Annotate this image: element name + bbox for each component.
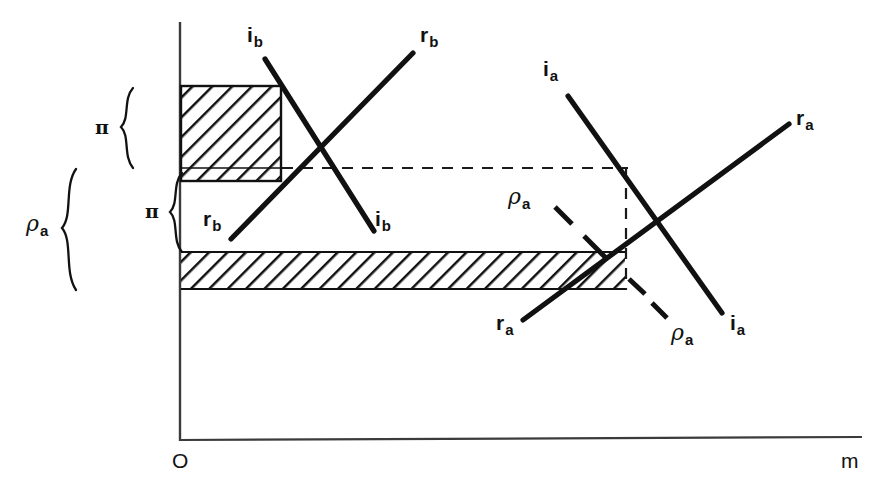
curve-label-rb-bottom: rb [203,208,220,229]
curve-label-ia-top-sub: a [550,67,558,84]
rho-a-lower-leader [629,279,667,318]
curve-label-rb-top-sub: b [429,33,438,50]
curve-label-ra-bottom-base: r [496,311,504,334]
brace-label-rho-a-sub: a [40,222,48,239]
curve-label-ia-bottom-sub: a [737,321,745,338]
brace-label-pi-lower: π [145,202,159,221]
curve-label-ib-bottom: ib [375,208,390,229]
brace-label-rho-a: ρa [26,213,47,235]
curve-label-ra-top-base: r [796,106,804,129]
curve-label-ra-top-sub: a [805,116,813,133]
curve-label-rb-top-base: r [420,23,428,46]
curve-label-ib-top-sub: b [254,33,263,50]
brace-group [62,88,182,290]
curve-label-ib-bottom-base: i [375,207,381,230]
curve-label-ib-top: ib [247,24,262,45]
curve-label-rho-a-lower-sub: a [685,331,693,348]
curve-label-ia-bottom-base: i [730,311,736,334]
curve-label-rb-bottom-sub: b [212,217,221,234]
brace-pi-upper [121,88,133,168]
rho-a-upper-leader [555,207,606,258]
curve-label-ia-top-base: i [543,57,549,80]
figure-canvas: O m π π ρa ib rb rb ib ia ra ra ia ρa ρa [0,0,878,500]
curve-label-ra-top: ra [796,107,813,128]
curve-label-ra-bottom-sub: a [505,321,513,338]
x-axis [179,437,862,440]
curve-label-ra-bottom: ra [496,312,513,333]
curve-label-rho-a-upper-base: ρ [508,184,521,209]
brace-label-rho-a-base: ρ [26,211,39,236]
brace-rho-a [62,169,76,290]
diagram-svg [0,0,878,500]
curve-label-ia-top: ia [543,58,557,79]
origin-label: O [172,450,188,471]
curve-label-ib-top-base: i [247,23,253,46]
curve-label-rb-top: rb [420,24,437,45]
curve-label-rho-a-lower: ρa [671,322,692,344]
curve-label-rho-a-upper-sub: a [522,195,530,212]
x-axis-label: m [841,450,859,471]
curve-label-ia-bottom: ia [730,312,744,333]
curve-label-ib-bottom-sub: b [382,217,391,234]
curve-label-rho-a-lower-base: ρ [671,320,684,345]
upper-hatch-block [181,86,281,181]
curve-label-rb-bottom-base: r [203,207,211,230]
lower-hatch-band [181,252,625,289]
line-r-a [523,124,789,320]
curve-label-rho-a-upper: ρa [508,186,529,208]
brace-label-pi-upper: π [95,118,109,137]
